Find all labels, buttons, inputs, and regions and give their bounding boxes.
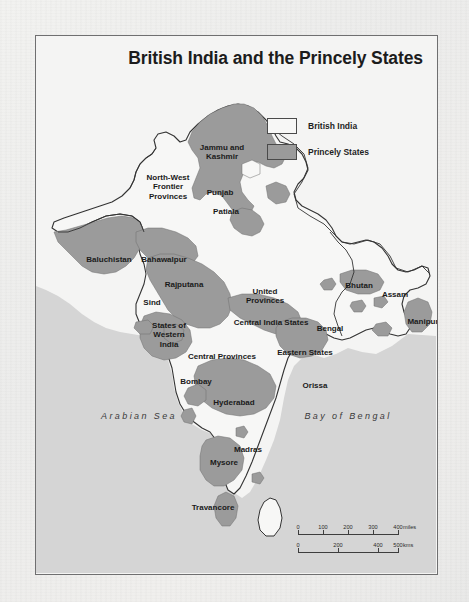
scale-tick-label: 300 (368, 524, 377, 530)
scale-line-kms (298, 552, 398, 553)
scale-tick-label: 0 (296, 542, 299, 548)
page-title: British India and the Princely States (36, 48, 423, 69)
scale-tick (398, 548, 399, 553)
scale-tick (298, 548, 299, 553)
scale-tick-label: 500 (393, 542, 402, 548)
scale-tick (348, 530, 349, 535)
region-kashmir-enclave (242, 160, 260, 178)
legend-swatch-gray-box (267, 144, 297, 160)
scale-bar-kms: 0200400500kms (294, 543, 422, 561)
scale-tick (323, 530, 324, 535)
sea-label-bay-of-bengal: Bay of Bengal (304, 411, 391, 421)
map-legend: British India Princely States (267, 118, 397, 170)
scale-tick (378, 548, 379, 553)
scale-unit-label: miles (403, 524, 416, 530)
scale-tick-label: 400 (373, 542, 382, 548)
legend-label-british-india: British India (308, 121, 357, 131)
scale-tick (398, 530, 399, 535)
legend-item-british-india: British India (267, 118, 397, 134)
legend-swatch-white-box (267, 118, 297, 134)
scale-tick-label: 200 (333, 542, 342, 548)
scale-tick-label: 100 (318, 524, 327, 530)
legend-item-princely-states: Princely States (267, 144, 397, 160)
scale-bar-miles: 0100200300400miles (294, 525, 422, 543)
scale-tick-label: 200 (343, 524, 352, 530)
legend-label-princely-states: Princely States (308, 147, 369, 157)
scale-tick (338, 548, 339, 553)
scale-tick-label: 0 (296, 524, 299, 530)
map-figure: British India and the Princely States Br… (35, 35, 438, 575)
scale-unit-label: kms (403, 542, 413, 548)
region-bhutan (340, 270, 384, 294)
scale-tick (373, 530, 374, 535)
sea-label-arabian-sea: Arabian Sea (101, 411, 177, 421)
scale-bar: 0100200300400miles 0200400500kms (294, 525, 422, 561)
map-canvas (36, 36, 436, 573)
scale-tick-label: 400 (393, 524, 402, 530)
scale-tick (298, 530, 299, 535)
